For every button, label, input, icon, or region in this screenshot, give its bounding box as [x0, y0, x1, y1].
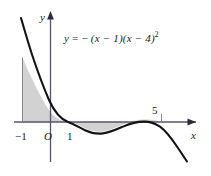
x-tick-label-1: 1 [67, 131, 73, 142]
equation-factor-2: (x − 4) [123, 32, 155, 44]
figure-canvas: y = − (x − 1)(x − 4)2 −1 O 1 5 y x [0, 0, 211, 176]
x-tick-label-neg1: −1 [15, 131, 27, 142]
x-axis-label: x [191, 130, 196, 141]
x-tick-label-5: 5 [152, 105, 158, 116]
equation-exponent: 2 [155, 30, 159, 39]
equation-factor-1: (x − 1) [91, 32, 123, 44]
y-axis-label: y [40, 12, 45, 23]
plot-svg [0, 0, 211, 176]
origin-label: O [44, 131, 52, 142]
equation-label: y = − (x − 1)(x − 4)2 [64, 30, 159, 44]
equation-lhs: y [64, 32, 69, 44]
equation-operator: = − [72, 32, 88, 44]
